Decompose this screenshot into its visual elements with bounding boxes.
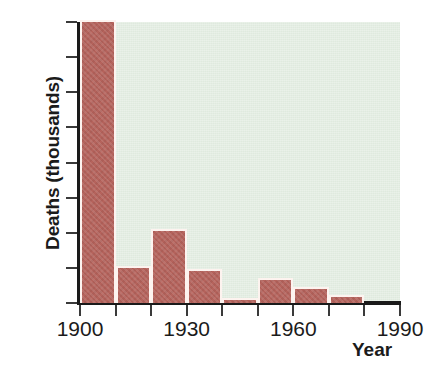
x-tick-mark: [186, 305, 188, 316]
x-tick-mark: [221, 305, 223, 316]
y-tick-mark: [66, 126, 77, 128]
bar-series: [80, 22, 400, 303]
bar: [151, 229, 187, 303]
y-tick-mark: [66, 21, 77, 23]
bar: [222, 298, 258, 303]
x-tick-label: 1930: [142, 317, 232, 340]
x-tick-mark: [292, 305, 294, 316]
x-tick-mark: [115, 305, 117, 316]
x-tick-mark: [79, 305, 81, 316]
y-axis-label: Deaths (thousands): [42, 18, 64, 308]
x-tick-label: 1990: [355, 317, 426, 340]
bar: [258, 278, 294, 303]
x-tick-mark: [328, 305, 330, 316]
y-tick-mark: [66, 91, 77, 93]
y-tick-mark: [66, 197, 77, 199]
x-tick-label: 1960: [248, 317, 338, 340]
x-tick-label: 1900: [35, 317, 125, 340]
y-tick-mark: [66, 302, 77, 304]
bar: [116, 266, 152, 303]
y-tick-mark: [66, 162, 77, 164]
bar: [187, 269, 223, 303]
x-tick-mark: [257, 305, 259, 316]
x-tick-mark: [150, 305, 152, 316]
bar-chart-figure: Deaths (thousands) 876543210 19001930196…: [0, 0, 426, 374]
y-tick-mark: [66, 232, 77, 234]
x-axis-label: Year: [352, 339, 392, 361]
y-tick-mark: [66, 56, 77, 58]
x-tick-mark: [399, 305, 401, 316]
bar: [293, 287, 329, 303]
bar: [80, 20, 116, 303]
x-tick-mark: [363, 305, 365, 316]
y-tick-mark: [66, 267, 77, 269]
bar: [329, 295, 365, 303]
